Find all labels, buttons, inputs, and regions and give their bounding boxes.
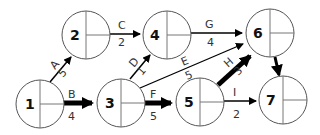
edge-I: I 2 <box>224 86 256 121</box>
node-6: 6 <box>246 9 294 57</box>
node-4-label: 4 <box>150 27 160 43</box>
node-5: 5 <box>176 78 224 126</box>
edge-C-letter: C <box>118 19 126 32</box>
edge-A: A 5 <box>47 57 71 82</box>
edge-F-letter: F <box>150 88 156 101</box>
node-7-label: 7 <box>266 92 276 108</box>
edge-B-letter: B <box>68 88 76 101</box>
node-5-label: 5 <box>184 94 194 110</box>
node-1-label: 1 <box>25 96 35 112</box>
edge-C: C 2 <box>110 19 140 49</box>
edge-I-letter: I <box>233 86 236 99</box>
edge-C-weight: 2 <box>118 36 125 49</box>
edge-A-weight: 5 <box>55 66 69 80</box>
edge-H-weight: 3 <box>231 64 245 78</box>
edge-6-7 <box>275 57 279 75</box>
network-diagram: A 5 B 4 C 2 D 1 E 5 F 5 G 4 H 3 I 2 <box>0 0 320 135</box>
edge-F: F 5 <box>145 88 171 123</box>
edge-G: G 4 <box>191 18 242 49</box>
node-3-label: 3 <box>105 95 115 111</box>
node-1: 1 <box>16 80 64 128</box>
edge-G-weight: 4 <box>207 36 214 49</box>
node-3: 3 <box>97 79 145 127</box>
node-7: 7 <box>259 76 307 124</box>
edge-H: H 3 <box>218 55 250 85</box>
edge-I-weight: 2 <box>233 108 240 121</box>
node-6-label: 6 <box>253 25 263 41</box>
node-2-label: 2 <box>70 27 80 43</box>
edge-G-letter: G <box>205 18 214 31</box>
node-4: 4 <box>143 11 191 59</box>
edge-D: D 1 <box>126 55 150 79</box>
edge-F-weight: 5 <box>150 110 157 123</box>
edge-6-7-arrow <box>275 57 279 75</box>
edge-B-weight: 4 <box>68 110 75 123</box>
edge-B: B 4 <box>64 88 92 123</box>
node-2: 2 <box>62 11 110 59</box>
edge-E-letter: E <box>179 54 191 69</box>
